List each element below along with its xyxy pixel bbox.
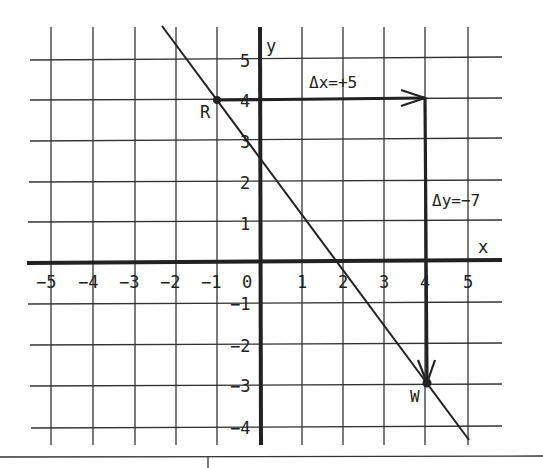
y-axis-label: y: [266, 36, 276, 56]
y-tick: 5: [240, 51, 250, 71]
x-tick: 0: [242, 272, 252, 292]
y-tick: 2: [240, 173, 250, 193]
point-r-label: R: [200, 102, 211, 122]
x-tick: 2: [338, 272, 348, 292]
y-tick-labels-negative: −1 −2 −3 −4: [230, 294, 250, 438]
y-tick: −4: [230, 418, 250, 438]
x-tick: 1: [297, 272, 307, 292]
delta-x-label: Δx=+5: [309, 73, 357, 92]
delta-y-arrow: [418, 98, 435, 383]
y-tick: −2: [230, 336, 250, 356]
delta-y-label: Δy=−7: [432, 191, 480, 210]
x-tick: −4: [78, 272, 98, 292]
y-tick: 3: [240, 132, 250, 152]
x-tick: −2: [160, 272, 180, 292]
x-tick: −1: [201, 272, 221, 292]
y-tick-labels-positive: 5 4 3 2 1: [240, 51, 250, 234]
point-r: [213, 96, 221, 104]
coordinate-plane: x y R W Δx=+5 Δy=−7 −5 −4 −3 −2 −1 0 1 2…: [0, 0, 543, 468]
y-tick: 1: [240, 214, 250, 234]
x-axis-label: x: [478, 237, 488, 257]
point-w: [423, 379, 432, 388]
x-tick: 3: [379, 272, 389, 292]
x-tick: −3: [119, 272, 139, 292]
x-tick: 4: [420, 272, 430, 292]
y-tick: 4: [240, 91, 250, 111]
y-tick: −1: [230, 294, 250, 314]
point-w-label: W: [410, 387, 420, 406]
y-axis: [260, 27, 261, 445]
bottom-rule: [0, 456, 543, 457]
x-axis: [27, 260, 502, 263]
y-tick: −3: [230, 376, 250, 396]
x-tick: −5: [36, 272, 56, 292]
x-tick: 5: [463, 272, 473, 292]
x-tick-labels: −5 −4 −3 −2 −1 0 1 2 3 4 5: [36, 272, 473, 292]
